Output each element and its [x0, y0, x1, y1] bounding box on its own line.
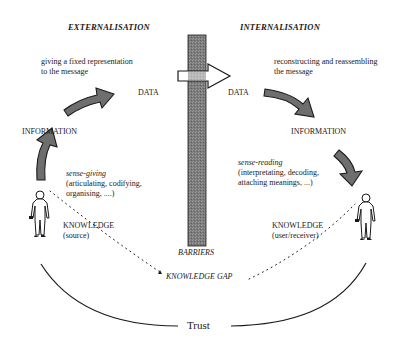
right-caption-line1: reconstructing and reassembling	[274, 57, 378, 66]
sense-giving-title: sense-giving	[66, 169, 106, 178]
right-data-label: DATA	[228, 88, 249, 97]
barrier-bar	[188, 35, 206, 246]
left-information-label: INFORMATION	[22, 127, 77, 136]
left-caption-line2: to the message	[41, 67, 88, 76]
trust-label: Trust	[187, 319, 210, 332]
left-data-label: DATA	[138, 88, 159, 97]
externalise-arrow-icon	[64, 88, 114, 116]
internalisation-heading: INTERNALISATION	[240, 23, 320, 33]
right-information-label: INFORMATION	[291, 127, 346, 136]
source-person-icon	[29, 191, 49, 237]
right-caption-line2: the message	[274, 67, 313, 76]
sense-reading-line2: attaching meanings, ...)	[238, 178, 313, 187]
receiver-knowledge-label: KNOWLEDGE	[272, 221, 323, 230]
sense-reading-line1: (interpretating, decoding,	[238, 168, 319, 177]
barriers-label: BARRIERS	[178, 248, 214, 257]
sense-giving-line2: organising, ....)	[66, 189, 114, 198]
diagram-graphics	[0, 0, 411, 348]
internalise-arrow-icon	[264, 89, 314, 117]
externalisation-heading: EXTERNALISATION	[68, 23, 150, 33]
source-knowledge-sub: (source)	[63, 231, 89, 240]
receiver-knowledge-sub: (user/receiver)	[272, 231, 319, 240]
left-caption-line1: giving a fixed representation	[41, 57, 133, 66]
source-knowledge-label: KNOWLEDGE	[63, 221, 114, 230]
sense-reading-title: sense-reading	[238, 158, 283, 167]
sense-reading-arrow-icon	[334, 150, 362, 186]
sense-giving-line1: (articulating, codifying,	[66, 179, 142, 188]
receiver-person-icon	[355, 194, 375, 240]
knowledge-gap-label: KNOWLEDGE GAP	[166, 272, 232, 281]
